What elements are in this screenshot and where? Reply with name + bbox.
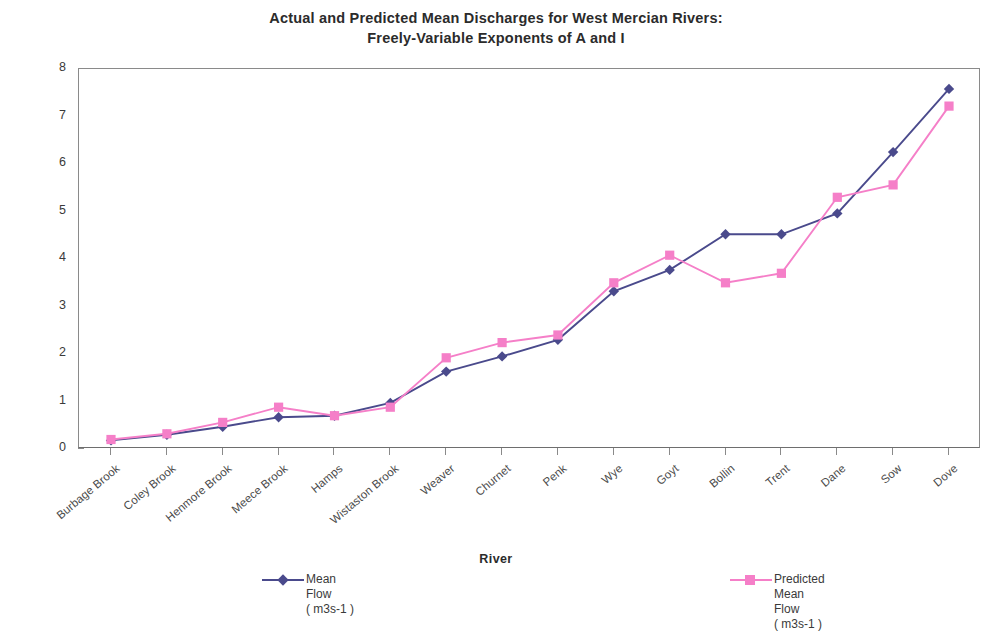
x-tick-label: Coley Brook [121,462,178,512]
x-axis-tick-labels: Burbage BrookColey BrookHenmore BrookMee… [0,448,992,558]
x-tick-label: Weaver [419,462,457,497]
y-tick-label: 3 [40,298,66,312]
x-tick-label: Dove [931,462,960,489]
chart-title-line1: Actual and Predicted Mean Discharges for… [269,10,723,26]
y-tick-label: 4 [40,250,66,264]
data-point-marker [441,366,451,376]
legend-marker-square-icon [730,573,772,587]
x-tick-label: Goyt [654,462,681,487]
x-tick-label: Meece Brook [229,462,289,515]
data-point-marker [498,338,507,347]
data-point-marker [386,403,395,412]
data-point-marker [609,278,618,287]
plot-area [78,68,980,448]
x-tick-label: Trent [764,462,792,488]
data-point-marker [218,418,227,427]
data-point-marker [721,278,730,287]
data-point-marker [106,435,115,444]
data-point-marker [330,411,339,420]
x-tick-label: Dane [819,462,848,489]
chart-title: Actual and Predicted Mean Discharges for… [0,8,992,48]
x-tick-label: Burbage Brook [54,462,121,521]
data-point-marker [274,403,283,412]
x-tick-label: Sow [879,462,904,486]
chart-title-line2: Freely-Variable Exponents of A and I [0,28,992,48]
legend-entry-mean-flow: Mean Flow ( m3s-1 ) [262,572,354,617]
legend-label-predicted-mean-flow: Predicted Mean Flow ( m3s-1 ) [772,572,825,632]
y-tick-label: 2 [40,345,66,359]
data-point-marker [273,412,283,422]
data-point-marker [720,229,730,239]
x-tick-label: Hamps [309,462,345,495]
y-tick-label: 7 [40,108,66,122]
data-point-marker [944,102,953,111]
legend-entry-predicted-mean-flow: Predicted Mean Flow ( m3s-1 ) [730,572,825,632]
x-axis-title: River [0,552,992,566]
data-point-marker [442,353,451,362]
data-point-marker [553,330,562,339]
x-tick-label: Penk [541,462,569,488]
series-mean-flow [106,84,954,446]
y-tick-label: 5 [40,203,66,217]
chart-legend: Mean Flow ( m3s-1 ) Predicted Mean Flow … [0,570,992,642]
series-line [111,106,949,439]
data-point-marker [777,269,786,278]
series-layer [79,69,981,449]
legend-label-mean-flow: Mean Flow ( m3s-1 ) [304,572,354,617]
y-tick-label: 1 [40,393,66,407]
x-tick-label: Churnet [473,462,513,498]
y-tick-label: 8 [40,60,66,74]
data-point-marker [665,251,674,260]
data-point-marker [776,229,786,239]
data-point-marker [889,180,898,189]
data-point-marker [162,429,171,438]
series-predicted-mean-flow [106,102,953,445]
data-point-marker [665,265,675,275]
x-tick-label: Wye [599,462,624,486]
series-line [111,89,949,441]
legend-marker-diamond-icon [262,573,304,587]
chart-container: Actual and Predicted Mean Discharges for… [0,0,992,642]
x-tick-label: Bollin [707,462,737,490]
data-point-marker [497,351,507,361]
y-tick-label: 6 [40,155,66,169]
data-point-marker [833,193,842,202]
